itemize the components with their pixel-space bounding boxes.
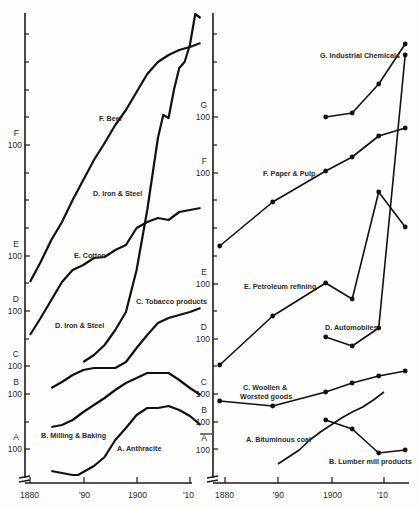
y-label-A: A	[201, 433, 207, 443]
y-label-F-100: 100	[8, 140, 22, 150]
series-line-d	[83, 14, 200, 362]
data-point-marker	[403, 126, 408, 131]
data-point-marker	[350, 381, 355, 386]
data-point-marker	[403, 42, 408, 47]
y-label-D-100: 100	[196, 334, 210, 344]
left-series-labels: F. Beer D. Iron & Steel E. Cotton C. Tob…	[41, 114, 207, 453]
data-point-marker	[270, 314, 275, 319]
y-label-A-100: 100	[8, 444, 22, 454]
series-line-b	[51, 373, 200, 427]
y-label-E: E	[13, 239, 19, 249]
label-iron-bottom: D. Iron & Steel	[55, 321, 104, 330]
series-line-f	[220, 128, 406, 246]
y-label-C: C	[201, 377, 207, 387]
y-label-F: F	[14, 128, 19, 138]
data-point-marker	[350, 155, 355, 160]
data-point-marker	[270, 200, 275, 205]
y-label-D: D	[13, 294, 19, 304]
y-label-G-100: 100	[196, 112, 210, 122]
data-point-marker	[350, 427, 355, 432]
data-point-marker	[323, 281, 328, 286]
x-label-1900-right: 1900	[323, 490, 342, 500]
data-point-marker	[323, 115, 328, 120]
y-label-B-100: 100	[8, 389, 22, 399]
data-point-marker	[323, 390, 328, 395]
y-label-F: F	[202, 156, 207, 166]
y-label-B: B	[201, 405, 207, 415]
data-point-marker	[323, 335, 328, 340]
data-point-marker	[217, 399, 222, 404]
data-point-marker	[403, 448, 408, 453]
x-label-1900-left: 1900	[128, 490, 147, 500]
y-label-E: E	[201, 267, 207, 277]
data-point-marker	[323, 169, 328, 174]
label-tobacco: C. Tobacco products	[136, 297, 207, 306]
label-woollen-2: Worsted goods	[240, 392, 292, 401]
data-point-marker	[376, 134, 381, 139]
data-point-marker	[403, 225, 408, 230]
x-label-10-left: '10	[183, 490, 194, 500]
series-line-a	[51, 406, 200, 475]
data-point-marker	[350, 344, 355, 349]
data-point-marker	[376, 190, 381, 195]
label-milling: B. Milling & Baking	[41, 431, 106, 440]
data-point-marker	[270, 404, 275, 409]
y-label-C: C	[13, 349, 19, 359]
y-label-G: G	[200, 100, 207, 110]
y-label-E-100: 100	[196, 279, 210, 289]
data-point-marker	[217, 363, 222, 368]
x-label-90-left: '90	[79, 490, 90, 500]
x-label-1880-left: 1880	[20, 490, 39, 500]
x-label-10-right: '10	[377, 490, 388, 500]
series-line-e	[220, 192, 406, 365]
y-label-D: D	[201, 322, 207, 332]
y-label-A-100: 100	[196, 445, 210, 455]
data-point-marker	[376, 451, 381, 456]
series-line-c	[51, 308, 200, 388]
label-woollen-1: C. Woollen &	[243, 383, 287, 392]
label-paper: F. Paper & Pulp	[263, 169, 316, 178]
y-label-C-100: 100	[8, 361, 22, 371]
label-lumber: B. Lumber mill products	[329, 457, 412, 466]
x-labels: 1880 '90 1900 '10 1880 '90 1900 '10	[20, 490, 388, 500]
y-label-A: A	[13, 432, 19, 442]
label-petroleum: E. Petroleum refining	[244, 282, 316, 291]
label-anthracite: A. Anthracite	[117, 444, 161, 453]
data-point-marker	[403, 53, 408, 58]
series-line-a	[278, 392, 384, 464]
series-line-f	[30, 43, 201, 282]
label-autos: D. Automobiles	[325, 323, 377, 332]
y-label-F-100: 100	[196, 168, 210, 178]
y-label-B: B	[13, 377, 19, 387]
series-lines	[30, 14, 408, 475]
label-beer: F. Beer	[99, 114, 123, 123]
chart-svg: F 100 E 100 D 100 C 100 B 100 A 100 G 10…	[0, 0, 419, 508]
right-y-labels: G 100 F 100 E 100 D 100 C 100 B 100 A 10…	[196, 100, 210, 455]
data-point-marker	[323, 418, 328, 423]
y-label-D-100: 100	[8, 306, 22, 316]
label-cotton: E. Cotton	[74, 251, 106, 260]
data-point-marker	[376, 374, 381, 379]
x-label-1880-right: 1880	[215, 490, 234, 500]
left-y-labels: F 100 E 100 D 100 C 100 B 100 A 100	[8, 128, 22, 454]
chart-figure: F 100 E 100 D 100 C 100 B 100 A 100 G 10…	[0, 0, 419, 508]
data-point-marker	[217, 244, 222, 249]
label-chemicals: G. Industrial Chemicals	[320, 51, 400, 60]
series-line-b	[326, 420, 406, 453]
label-bituminous: A. Bituminous coal	[246, 435, 311, 444]
data-point-marker	[403, 369, 408, 374]
data-point-marker	[350, 297, 355, 302]
y-label-E-100: 100	[8, 251, 22, 261]
data-point-marker	[350, 111, 355, 116]
data-point-marker	[376, 82, 381, 87]
label-iron-top: D. Iron & Steel	[93, 189, 142, 198]
x-label-90-right: '90	[273, 490, 284, 500]
